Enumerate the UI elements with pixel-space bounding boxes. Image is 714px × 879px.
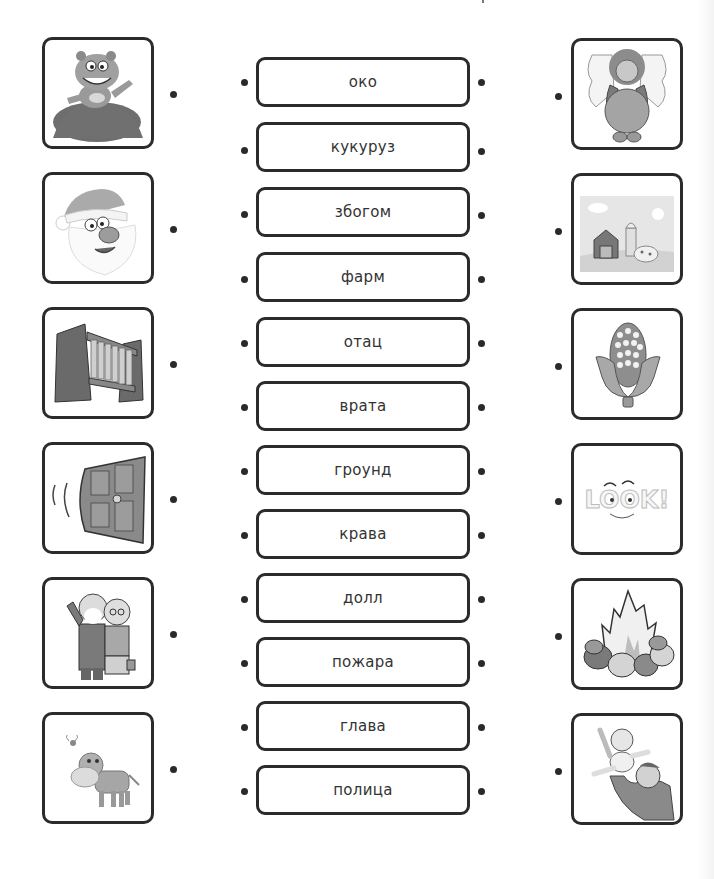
- picture-look[interactable]: LOOK!: [571, 443, 683, 555]
- word-right-dot-10[interactable]: [478, 660, 485, 667]
- word-box-9[interactable]: долл: [256, 573, 470, 623]
- word-left-dot-7[interactable]: [241, 468, 248, 475]
- word-box-5[interactable]: отац: [256, 317, 470, 367]
- word-label: око: [349, 73, 377, 91]
- door-icon: [45, 445, 151, 551]
- left-picture-dot-3[interactable]: [170, 361, 177, 368]
- word-label: фарм: [341, 268, 385, 286]
- right-picture-dot-1[interactable]: [555, 93, 562, 100]
- word-box-8[interactable]: крава: [256, 509, 470, 559]
- picture-father-baby[interactable]: [571, 713, 683, 825]
- word-label: глава: [340, 717, 386, 735]
- right-picture-dot-6[interactable]: [555, 768, 562, 775]
- picture-farm[interactable]: [571, 173, 683, 285]
- farm-icon: [574, 176, 680, 282]
- word-left-dot-3[interactable]: [241, 211, 248, 218]
- left-picture-dot-2[interactable]: [170, 226, 177, 233]
- word-box-4[interactable]: фарм: [256, 252, 470, 302]
- look-eye-icon: LOOK!: [574, 446, 680, 552]
- word-left-dot-6[interactable]: [241, 404, 248, 411]
- word-right-dot-2[interactable]: [478, 148, 485, 155]
- word-right-dot-6[interactable]: [478, 404, 485, 411]
- picture-santa[interactable]: [42, 172, 154, 284]
- svg-text:LOOK!: LOOK!: [585, 486, 670, 514]
- word-right-dot-8[interactable]: [478, 532, 485, 539]
- corn-icon: [574, 311, 680, 417]
- word-left-dot-8[interactable]: [241, 532, 248, 539]
- picture-corn[interactable]: [571, 308, 683, 420]
- left-picture-dot-4[interactable]: [170, 496, 177, 503]
- word-right-dot-9[interactable]: [478, 596, 485, 603]
- picture-door[interactable]: [42, 442, 154, 554]
- word-right-dot-4[interactable]: [478, 276, 485, 283]
- santa-claus-icon: [45, 175, 151, 281]
- scan-mark: [482, 0, 484, 3]
- word-label: пожара: [332, 653, 394, 671]
- word-box-3[interactable]: збогом: [256, 187, 470, 237]
- groundhog-icon: [45, 40, 151, 146]
- word-box-11[interactable]: глава: [256, 701, 470, 751]
- word-right-dot-5[interactable]: [478, 340, 485, 347]
- word-box-6[interactable]: врата: [256, 381, 470, 431]
- word-label: полица: [333, 781, 393, 799]
- picture-elderly-couple[interactable]: [42, 577, 154, 689]
- left-picture-dot-1[interactable]: [170, 91, 177, 98]
- word-left-dot-11[interactable]: [241, 724, 248, 731]
- word-box-12[interactable]: полица: [256, 765, 470, 815]
- word-right-dot-3[interactable]: [478, 212, 485, 219]
- picture-groundhog[interactable]: [42, 37, 154, 149]
- word-label: отац: [344, 333, 383, 351]
- right-picture-dot-5[interactable]: [555, 633, 562, 640]
- word-left-dot-2[interactable]: [241, 147, 248, 154]
- word-box-7[interactable]: гроунд: [256, 445, 470, 495]
- picture-cow[interactable]: [42, 712, 154, 824]
- word-right-dot-12[interactable]: [478, 788, 485, 795]
- page-edge-shadow: [698, 0, 714, 879]
- word-label: гроунд: [334, 461, 391, 479]
- word-right-dot-1[interactable]: [478, 79, 485, 86]
- word-label: збогом: [335, 203, 392, 221]
- elderly-couple-icon: [45, 580, 151, 686]
- right-picture-dot-2[interactable]: [555, 228, 562, 235]
- campfire-icon: [574, 581, 680, 687]
- left-picture-dot-5[interactable]: [170, 631, 177, 638]
- cow-icon: [45, 715, 151, 821]
- word-label: долл: [343, 589, 383, 607]
- doll-icon: [574, 41, 680, 147]
- word-box-10[interactable]: пожара: [256, 637, 470, 687]
- word-left-dot-5[interactable]: [241, 340, 248, 347]
- left-picture-dot-6[interactable]: [170, 766, 177, 773]
- word-box-2[interactable]: кукуруз: [256, 122, 470, 172]
- right-picture-dot-4[interactable]: [555, 498, 562, 505]
- picture-bookshelf[interactable]: [42, 307, 154, 419]
- word-left-dot-10[interactable]: [241, 660, 248, 667]
- bookshelf-icon: [45, 310, 151, 416]
- word-label: врата: [340, 397, 387, 415]
- picture-doll[interactable]: [571, 38, 683, 150]
- word-left-dot-9[interactable]: [241, 596, 248, 603]
- picture-campfire[interactable]: [571, 578, 683, 690]
- word-left-dot-4[interactable]: [241, 276, 248, 283]
- word-left-dot-12[interactable]: [241, 788, 248, 795]
- word-right-dot-7[interactable]: [478, 468, 485, 475]
- word-left-dot-1[interactable]: [241, 79, 248, 86]
- word-label: кукуруз: [331, 138, 395, 156]
- word-box-1[interactable]: око: [256, 57, 470, 107]
- father-baby-icon: [574, 716, 680, 822]
- word-label: крава: [339, 525, 386, 543]
- right-picture-dot-3[interactable]: [555, 363, 562, 370]
- word-right-dot-11[interactable]: [478, 724, 485, 731]
